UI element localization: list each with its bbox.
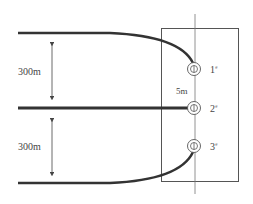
well-2-symbol-icon xyxy=(188,102,201,115)
upper-distance-label: 300m xyxy=(18,66,41,77)
lower-distance-label: 300m xyxy=(18,141,41,152)
well-spacing-label: 5m xyxy=(176,86,188,96)
well-3-trajectory xyxy=(18,152,193,183)
well-1-symbol-icon xyxy=(188,63,201,76)
well-3-symbol-icon xyxy=(188,140,201,153)
well-1-label: 1# xyxy=(210,64,218,75)
well-2-label: 2# xyxy=(210,103,218,114)
well-1-trajectory xyxy=(18,33,193,63)
well-layout-diagram: 300m 300m 5m 1# 2# 3# xyxy=(0,0,253,204)
well-3-label: 3# xyxy=(210,141,218,152)
